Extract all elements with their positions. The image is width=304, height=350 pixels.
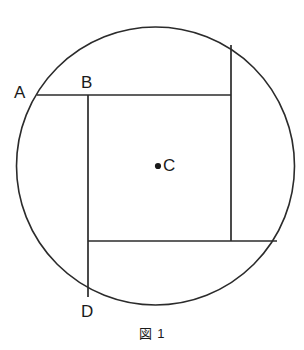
vertex-label-b: B [81,74,92,91]
figure-caption: 図 1 [0,326,304,341]
figure-canvas [0,0,304,350]
center-point-c [155,163,161,169]
vertex-label-a: A [14,84,25,101]
geometry-figure: A B C D 図 1 [0,0,304,350]
vertex-label-c: C [163,157,175,174]
vertex-label-d: D [81,303,93,320]
